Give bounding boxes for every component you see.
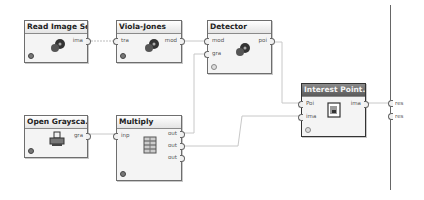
status-indicator xyxy=(211,64,217,70)
operator-multiply[interactable]: Multiply inp out out out xyxy=(116,115,182,181)
operator-open-grayscale[interactable]: Open Graysca... gra xyxy=(24,115,88,158)
operator-read-image-set[interactable]: Read Image Set ima xyxy=(24,20,88,63)
input-port-mod[interactable]: mod xyxy=(212,37,224,44)
output-port-gra[interactable]: gra xyxy=(74,132,83,139)
result-port-knob[interactable] xyxy=(388,113,393,120)
input-port-knob[interactable] xyxy=(204,51,209,58)
output-port-ima[interactable]: ima xyxy=(351,100,361,107)
output-port-out-1[interactable]: out xyxy=(168,130,177,137)
gears-icon xyxy=(49,37,67,53)
operator-interest-points[interactable]: Interest Point... Poi ima ima xyxy=(301,83,366,137)
status-indicator xyxy=(28,53,34,59)
operator-title: Interest Point... xyxy=(302,84,365,97)
process-canvas[interactable]: Read Image Set ima Viola-Jones tra mod D… xyxy=(0,0,424,200)
input-port-ima[interactable]: ima xyxy=(306,113,316,120)
input-port-knob[interactable] xyxy=(298,114,303,121)
operator-viola-jones[interactable]: Viola-Jones tra mod xyxy=(116,20,182,63)
status-indicator xyxy=(28,148,34,154)
input-port-knob[interactable] xyxy=(204,38,209,45)
input-port-gra[interactable]: gra xyxy=(212,50,221,57)
input-port-knob[interactable] xyxy=(113,38,118,45)
result-sink-line xyxy=(390,5,391,190)
output-port-ima[interactable]: ima xyxy=(73,37,83,44)
input-port-tra[interactable]: tra xyxy=(121,37,129,44)
output-port-knob[interactable] xyxy=(180,143,185,150)
output-port-knob[interactable] xyxy=(364,101,369,108)
status-indicator xyxy=(120,53,126,59)
operator-title: Multiply xyxy=(117,116,181,129)
operator-title: Detector xyxy=(208,21,271,34)
output-port-knob[interactable] xyxy=(270,38,275,45)
input-port-knob[interactable] xyxy=(113,133,118,140)
input-port-poi[interactable]: Poi xyxy=(306,100,314,107)
operator-detector[interactable]: Detector mod gra poi xyxy=(207,20,272,74)
gears-icon xyxy=(143,37,161,53)
output-port-knob[interactable] xyxy=(180,38,185,45)
stack-icon xyxy=(143,136,157,154)
output-port-knob[interactable] xyxy=(86,38,91,45)
result-port-knob[interactable] xyxy=(388,100,393,107)
output-port-knob[interactable] xyxy=(180,131,185,138)
printer-icon xyxy=(49,131,65,147)
operator-title: Viola-Jones xyxy=(117,21,181,34)
input-port-knob[interactable] xyxy=(298,101,303,108)
operator-title: Open Graysca... xyxy=(25,116,87,129)
output-port-mod[interactable]: mod xyxy=(165,37,177,44)
output-port-out-2[interactable]: out xyxy=(168,142,177,149)
image-icon xyxy=(327,102,341,118)
output-port-knob[interactable] xyxy=(180,155,185,162)
output-port-poi[interactable]: poi xyxy=(259,37,267,44)
operator-title: Read Image Set xyxy=(25,21,87,34)
gears-icon xyxy=(234,41,252,57)
input-port-inp[interactable]: inp xyxy=(121,132,130,139)
output-port-knob[interactable] xyxy=(86,133,91,140)
status-indicator xyxy=(120,171,126,177)
status-indicator xyxy=(305,127,311,133)
output-port-out-3[interactable]: out xyxy=(168,154,177,161)
